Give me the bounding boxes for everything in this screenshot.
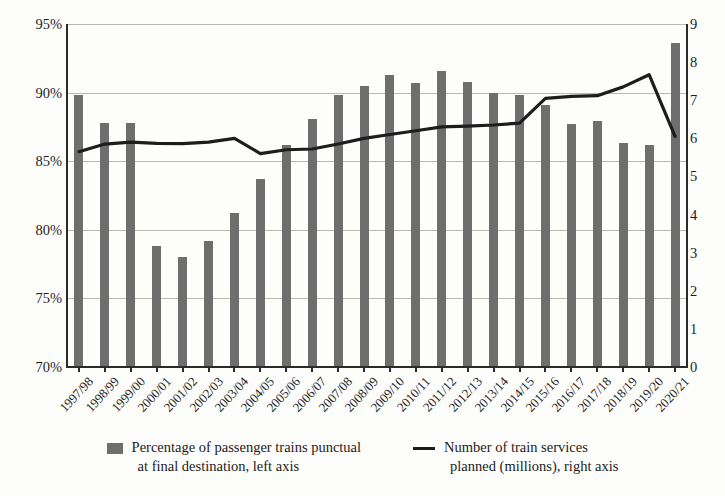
y-right-tick-label: 3 <box>690 244 697 261</box>
y-right-tick-label: 4 <box>690 206 697 223</box>
legend-entry-line: Number of train services planned (millio… <box>413 438 618 494</box>
chart-legend: Percentage of passenger trains punctual … <box>0 438 725 494</box>
y-right-tick-label: 1 <box>690 320 697 337</box>
y-left-tick-label: 90% <box>35 84 62 101</box>
legend-entry-bars: Percentage of passenger trains punctual … <box>107 438 362 494</box>
legend-bar-swatch-icon <box>107 443 123 454</box>
legend-bar-line1: Percentage of passenger trains punctual <box>132 439 362 455</box>
y-right-tick-label: 5 <box>690 168 697 185</box>
y-left-tick-label: 95% <box>35 16 62 33</box>
y-right-tick-label: 7 <box>690 92 697 109</box>
legend-line-line1: Number of train services <box>444 439 588 455</box>
y-left-tick-label: 75% <box>35 290 62 307</box>
legend-line-swatch-icon <box>413 447 435 450</box>
y-right-tick-label: 2 <box>690 282 697 299</box>
legend-line-text: Number of train services planned (millio… <box>444 438 618 476</box>
y-right-tick-label: 9 <box>690 16 697 33</box>
axis-line-bottom <box>66 366 688 369</box>
line-series <box>66 24 688 367</box>
x-axis-labels: 1997/981998/991999/002000/012001/022002/… <box>66 372 688 442</box>
legend-line-line2: planned (millions), right axis <box>444 457 618 476</box>
chart-container: 70%75%80%85%90%95% 0123456789 1997/98199… <box>0 0 725 496</box>
y-axis-left: 70%75%80%85%90%95% <box>6 0 62 496</box>
y-left-tick-label: 70% <box>35 359 62 376</box>
y-right-tick-label: 8 <box>690 54 697 71</box>
plot-area <box>66 24 688 367</box>
y-left-tick-label: 85% <box>35 153 62 170</box>
y-left-tick-label: 80% <box>35 221 62 238</box>
y-right-tick-label: 0 <box>690 359 697 376</box>
y-axis-right: 0123456789 <box>690 0 720 496</box>
legend-bar-text: Percentage of passenger trains punctual … <box>132 438 362 476</box>
y-right-tick-label: 6 <box>690 130 697 147</box>
legend-bar-line2: at final destination, left axis <box>132 457 362 476</box>
line-path <box>79 75 675 154</box>
